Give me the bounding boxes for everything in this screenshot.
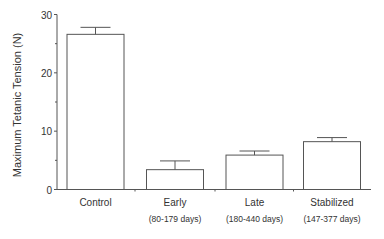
chart-canvas: 0102030 ControlEarly(80-179 days)Late(18… bbox=[0, 0, 384, 239]
bar-early bbox=[147, 161, 204, 190]
bar-rect bbox=[147, 170, 204, 190]
y-tick-label: 30 bbox=[41, 10, 53, 21]
x-category-label: Late bbox=[245, 197, 265, 208]
x-category-label: Stabilized bbox=[310, 197, 353, 208]
x-category-sublabel: (180-440 days) bbox=[226, 214, 283, 224]
y-tick-label: 0 bbox=[46, 185, 52, 196]
y-tick-label: 20 bbox=[41, 68, 53, 79]
x-labels: ControlEarly(80-179 days)Late(180-440 da… bbox=[79, 197, 360, 224]
bar-rect bbox=[67, 34, 124, 189]
bar-rect bbox=[226, 155, 283, 189]
bar-chart: 0102030 ControlEarly(80-179 days)Late(18… bbox=[0, 0, 384, 239]
x-category-sublabel: (147-377 days) bbox=[303, 214, 360, 224]
x-category-label: Control bbox=[79, 197, 111, 208]
bar-late bbox=[226, 151, 283, 190]
bar-stabilized bbox=[304, 138, 361, 190]
bar-control bbox=[67, 27, 124, 189]
x-category-sublabel: (80-179 days) bbox=[149, 214, 202, 224]
bar-rect bbox=[304, 142, 361, 190]
x-category-label: Early bbox=[164, 197, 187, 208]
y-ticks: 0102030 bbox=[41, 10, 57, 196]
y-axis-label: Maximum Tetanic Tension (N) bbox=[11, 33, 23, 177]
bars-group bbox=[67, 27, 361, 191]
y-tick-label: 10 bbox=[41, 126, 53, 137]
